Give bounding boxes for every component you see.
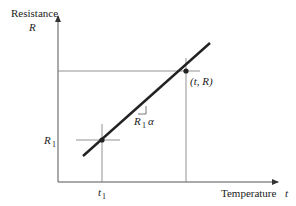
slope-label-main: R [133,115,141,127]
y-axis-symbol: R [28,21,36,33]
t1-label-sub: 1 [102,192,106,201]
general-point-label: (t, R) [190,75,213,88]
general-point-dot [183,68,188,73]
reference-point-dot [99,137,104,142]
x-axis-symbol: t [285,187,289,199]
x-axis-title: Temperature [221,187,277,199]
slope-label-sub: 1 [142,121,146,130]
slope-label-alpha: α [148,115,154,127]
r1-label-sub: 1 [52,140,56,149]
y-axis-title: Resistance [11,7,58,19]
r1-label-main: R [43,134,51,146]
resistance-temperature-diagram: Resistance R Temperature t (t, R) R 1 t … [0,0,296,206]
